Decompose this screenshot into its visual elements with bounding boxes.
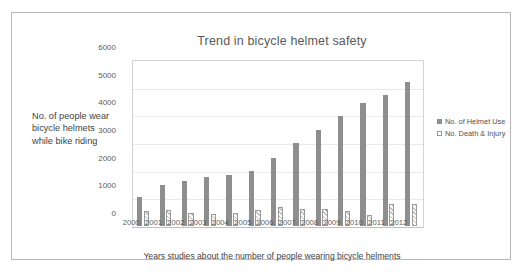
chart-title: Trend in bicycle helmet safety <box>132 34 432 48</box>
legend-swatch-icon <box>437 131 442 136</box>
bar-helmet-use[interactable] <box>338 116 343 226</box>
x-tick-label: 2011 <box>368 218 384 227</box>
bar-death-injury[interactable] <box>412 204 417 226</box>
x-axis-title: Years studies about the number of people… <box>72 251 472 261</box>
y-tick-label: 3000 <box>86 126 116 135</box>
x-tick-label: 2005 <box>234 218 251 227</box>
x-tick-label: 2007 <box>279 218 296 227</box>
bar-helmet-use[interactable] <box>383 95 388 226</box>
y-tick-label: 0 <box>86 209 116 218</box>
x-tick-label: 2008 <box>301 218 318 227</box>
x-tick-label: 2006 <box>257 218 274 227</box>
bar-helmet-use[interactable] <box>360 103 365 226</box>
bars-layer <box>132 60 422 226</box>
x-tick-label: 2000 <box>123 218 140 227</box>
y-tick-label: 5000 <box>86 70 116 79</box>
x-tick-label: 2004 <box>212 218 229 227</box>
bar-helmet-use[interactable] <box>293 143 298 226</box>
bar-helmet-use[interactable] <box>405 82 410 226</box>
y-tick-label: 6000 <box>86 43 116 52</box>
legend-item-death-injury[interactable]: No. Death & Injury <box>437 129 523 138</box>
x-tick-label: 2002 <box>167 218 184 227</box>
y-tick-label: 1000 <box>86 181 116 190</box>
x-tick-label: 2003 <box>190 218 207 227</box>
x-tick-label: 2009 <box>323 218 340 227</box>
legend-item-helmet-use[interactable]: No. of Helmet Use <box>437 117 523 126</box>
legend-label: No. of Helmet Use <box>445 117 505 126</box>
chart-legend: No. of Helmet Use No. Death & Injury <box>437 117 523 141</box>
bar-helmet-use[interactable] <box>271 158 276 226</box>
chart-figure: Trend in bicycle helmet safety No. of pe… <box>0 0 523 272</box>
legend-label: No. Death & Injury <box>445 129 505 138</box>
y-tick-label: 4000 <box>86 98 116 107</box>
y-tick-label: 2000 <box>86 153 116 162</box>
x-tick-label: 2010 <box>346 218 363 227</box>
bar-helmet-use[interactable] <box>316 130 321 226</box>
x-tick-label: 2012 <box>390 218 407 227</box>
x-tick-label: 2001 <box>145 218 162 227</box>
legend-swatch-icon <box>437 119 442 124</box>
